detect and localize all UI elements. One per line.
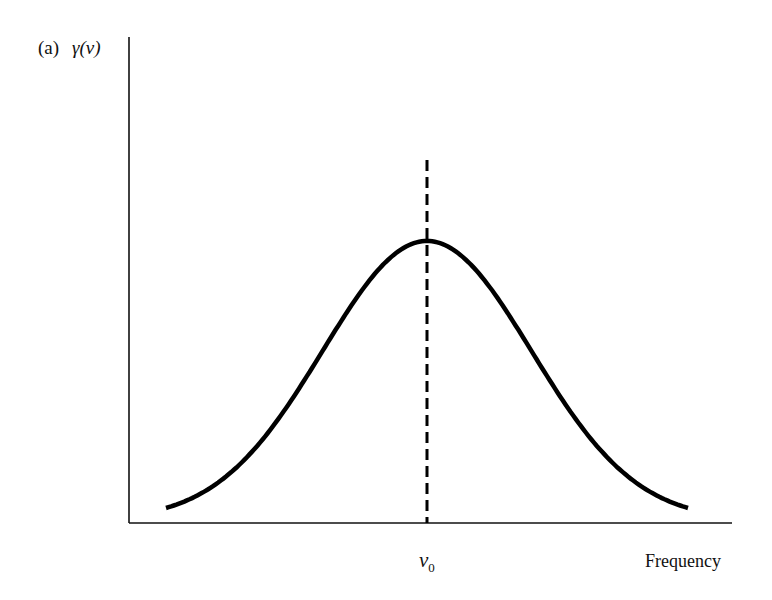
y-axis-label: γ(ν) — [72, 37, 101, 59]
line-profile-chart: (a) γ(ν) Frequency ν0 — [0, 0, 772, 600]
x-axis-label: Frequency — [645, 551, 721, 571]
center-tick-label: ν0 — [419, 548, 435, 575]
panel-label: (a) — [38, 37, 59, 59]
